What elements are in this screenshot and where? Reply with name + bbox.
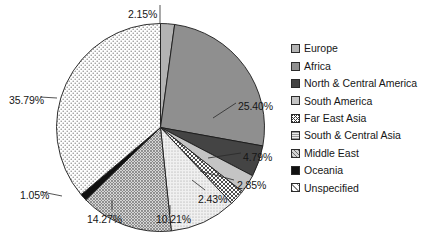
legend-item-south-america[interactable]: South America (291, 92, 429, 109)
legend-swatch-oceania (291, 166, 300, 175)
pie-slice-africa[interactable] (161, 24, 265, 146)
pie-label-africa: 25.40% (238, 101, 273, 112)
legend-label-south-central-asia: South & Central Asia (304, 130, 401, 141)
pie-label-europe: 2.15% (128, 9, 157, 20)
legend-swatch-south-central-asia (291, 131, 300, 140)
pie-label-north-central-america: 4.79% (243, 152, 272, 163)
legend-label-europe: Europe (304, 43, 338, 54)
chart-legend: Europe Africa North & Central America So… (291, 40, 429, 197)
legend-swatch-unspecified (291, 183, 300, 192)
legend-item-europe[interactable]: Europe (291, 40, 429, 57)
legend-item-far-east-asia[interactable]: Far East Asia (291, 110, 429, 127)
legend-item-oceania[interactable]: Oceania (291, 162, 429, 179)
legend-label-middle-east: Middle East (304, 148, 359, 159)
pie-label-far-east-asia: 2.43% (198, 194, 227, 205)
legend-label-unspecified: Unspecified (304, 183, 359, 194)
legend-label-north-central-america: North & Central America (304, 78, 417, 89)
legend-label-africa: Africa (304, 61, 331, 72)
legend-swatch-middle-east (291, 149, 300, 158)
pie-label-middle-east: 14.27% (87, 214, 122, 225)
pie-label-oceania: 1.05% (20, 190, 49, 201)
legend-item-north-central-america[interactable]: North & Central America (291, 75, 429, 92)
legend-swatch-far-east-asia (291, 114, 300, 123)
pie-chart-figure: 2.15%25.40%4.79%2.85%2.43%10.21%14.27%1.… (0, 0, 429, 237)
legend-swatch-south-america (291, 96, 300, 105)
legend-label-south-america: South America (304, 96, 372, 107)
legend-swatch-north-central-america (291, 79, 300, 88)
pie-slice-group (56, 23, 264, 231)
legend-swatch-europe (291, 44, 300, 53)
legend-item-south-central-asia[interactable]: South & Central Asia (291, 127, 429, 144)
pie-label-unspecified: 35.79% (9, 95, 44, 106)
pie-label-south-america: 2.85% (237, 180, 266, 191)
legend-label-far-east-asia: Far East Asia (304, 113, 366, 124)
legend-swatch-africa (291, 62, 300, 71)
pie-label-south-central-asia: 10.21% (156, 214, 191, 225)
legend-label-oceania: Oceania (304, 165, 343, 176)
legend-item-middle-east[interactable]: Middle East (291, 144, 429, 161)
legend-item-africa[interactable]: Africa (291, 57, 429, 74)
legend-item-unspecified[interactable]: Unspecified (291, 179, 429, 196)
